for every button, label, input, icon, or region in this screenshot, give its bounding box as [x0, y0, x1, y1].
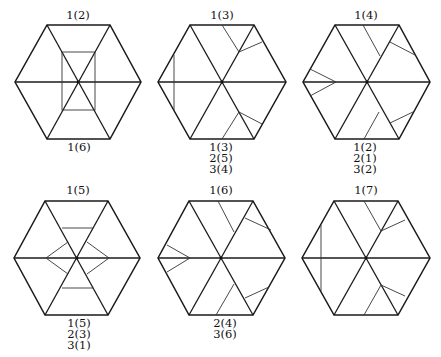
top-label: 1(3) — [210, 8, 234, 22]
center-point — [366, 81, 369, 84]
bottom-label-3: 3(2) — [353, 162, 377, 176]
center-point — [365, 257, 368, 260]
center-point — [220, 257, 223, 260]
top-label: 1(7) — [354, 183, 378, 197]
bottom-label-3: 3(1) — [67, 338, 91, 352]
panel-3: 1(4) 1(2) 2(1) 3(2) — [303, 8, 430, 176]
top-label: 1(6) — [209, 183, 233, 197]
center-point — [221, 81, 224, 84]
panel-1: 1(2) 1(6) — [15, 8, 141, 154]
panel-5: 1(6) 2(4) 3(6) — [158, 183, 285, 341]
top-label: 1(5) — [66, 183, 90, 197]
hexagon-figure: 1(2) 1(6) 1(3) 1(3) 2(5) 3(4) — [0, 0, 441, 357]
center-point — [77, 81, 80, 84]
panel-4: 1(5) 1(5) 2(3) 3(1) — [14, 183, 140, 352]
bottom-label-3: 3(4) — [209, 162, 233, 176]
panel-6: 1(7) — [302, 183, 430, 315]
top-label: 1(4) — [354, 8, 378, 22]
bottom-label-2: 3(6) — [213, 327, 237, 341]
bottom-label-1: 1(6) — [67, 140, 91, 154]
center-point — [76, 257, 79, 260]
top-label: 1(2) — [66, 8, 90, 22]
panel-2: 1(3) 1(3) 2(5) 3(4) — [158, 8, 286, 176]
